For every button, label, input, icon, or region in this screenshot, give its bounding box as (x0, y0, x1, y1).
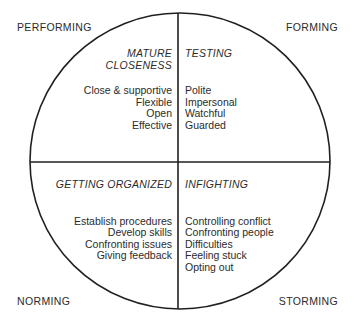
quadrant-title-line: GETTING ORGANIZED (56, 179, 172, 191)
quadrant-title-line: TESTING (185, 48, 237, 60)
quadrant-top-right: TESTING Polite Impersonal Watchful Guard… (185, 48, 237, 132)
quadrant-title-testing: TESTING (185, 48, 237, 60)
quadrant-bottom-right: INFIGHTING Controlling conflict Confront… (185, 179, 274, 274)
stage-label-forming: FORMING (286, 22, 338, 33)
spacer (56, 191, 172, 216)
quadrant-item-list-bottom-left: Establish procedures Develop skills Conf… (56, 216, 172, 262)
spacer (185, 60, 237, 86)
quadrant-title-line: INFIGHTING (185, 179, 274, 191)
list-item: Guarded (185, 120, 237, 132)
quadrant-item-list-bottom-right: Controlling conflict Confronting people … (185, 216, 274, 274)
stage-label-storming: STORMING (279, 296, 338, 307)
quadrant-circle-graphic (0, 0, 355, 323)
stage-label-performing: PERFORMING (17, 22, 92, 33)
quadrant-title-line: MATURE (84, 48, 172, 60)
quadrant-title-mature-closeness: MATURE CLOSENESS (84, 48, 172, 71)
quadrant-item-list-top-left: Close & supportive Flexible Open Effecti… (84, 85, 172, 131)
list-item: Effective (84, 120, 172, 132)
quadrant-top-left: MATURE CLOSENESS Close & supportive Flex… (84, 48, 172, 132)
quadrant-title-line: CLOSENESS (84, 60, 172, 72)
spacer (185, 191, 274, 216)
diagram-canvas: PERFORMING FORMING NORMING STORMING MATU… (0, 0, 355, 323)
stage-label-norming: NORMING (17, 296, 70, 307)
quadrant-title-getting-organized: GETTING ORGANIZED (56, 179, 172, 191)
quadrant-item-list-top-right: Polite Impersonal Watchful Guarded (185, 85, 237, 131)
spacer (84, 71, 172, 85)
quadrant-bottom-left: GETTING ORGANIZED Establish procedures D… (56, 179, 172, 262)
circle-outline (30, 13, 330, 309)
list-item: Giving feedback (56, 250, 172, 262)
list-item: Opting out (185, 262, 274, 274)
quadrant-title-infighting: INFIGHTING (185, 179, 274, 191)
